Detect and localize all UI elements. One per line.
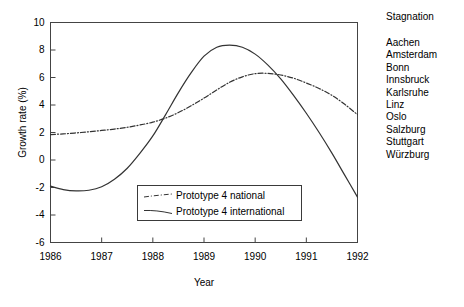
city-list-item: Stuttgart bbox=[386, 136, 464, 148]
legend-entry-national: Prototype 4 national bbox=[143, 188, 265, 204]
data-series-layer bbox=[51, 45, 358, 197]
y-tick-label: -4 bbox=[15, 210, 45, 220]
city-list-item: Amsterdam bbox=[386, 49, 464, 61]
x-axis-title: Year bbox=[154, 277, 254, 288]
chart-figure: 1086420-2-4-6 19861987198819891990199119… bbox=[0, 0, 464, 307]
legend-entry-international: Prototype 4 international bbox=[143, 204, 284, 220]
x-tick-label: 1986 bbox=[31, 252, 71, 262]
x-tick-label: 1987 bbox=[82, 252, 122, 262]
y-tick-label: -6 bbox=[15, 238, 45, 248]
city-list-item: Karlsruhe bbox=[386, 87, 464, 99]
city-list-item: Oslo bbox=[386, 111, 464, 123]
city-list-item: Bonn bbox=[386, 62, 464, 74]
city-list-item: Aachen bbox=[386, 37, 464, 49]
x-tick-label: 1990 bbox=[235, 252, 275, 262]
x-axis-tick-marks bbox=[51, 238, 358, 243]
x-tick-label: 1988 bbox=[133, 252, 173, 262]
y-tick-label: 10 bbox=[15, 18, 45, 28]
legend-label-international: Prototype 4 international bbox=[176, 206, 284, 218]
series-line-national bbox=[51, 73, 358, 134]
city-list: AachenAmsterdamBonnInnsbruckKarlsruheLin… bbox=[386, 37, 464, 161]
city-list-item: Innsbruck bbox=[386, 74, 464, 86]
city-list-item: Salzburg bbox=[386, 124, 464, 136]
city-list-item: Würzburg bbox=[386, 149, 464, 161]
y-axis-tick-marks bbox=[51, 23, 56, 243]
x-tick-label: 1989 bbox=[184, 252, 224, 262]
legend-line-sample-dash-dot bbox=[143, 190, 173, 202]
y-axis-title: Growth rate (%) bbox=[17, 58, 28, 188]
stagnation-title: Stagnation bbox=[386, 11, 464, 23]
side-caption-block: Stagnation AachenAmsterdamBonnInnsbruckK… bbox=[386, 11, 464, 161]
series-line-international bbox=[51, 45, 358, 197]
legend-line-sample-solid bbox=[143, 206, 173, 218]
chart-legend: Prototype 4 national Prototype 4 interna… bbox=[137, 185, 302, 221]
x-tick-label: 1992 bbox=[338, 252, 378, 262]
city-list-item: Linz bbox=[386, 99, 464, 111]
y-tick-label: 8 bbox=[15, 45, 45, 55]
legend-label-national: Prototype 4 national bbox=[176, 190, 265, 202]
x-tick-label: 1991 bbox=[286, 252, 326, 262]
